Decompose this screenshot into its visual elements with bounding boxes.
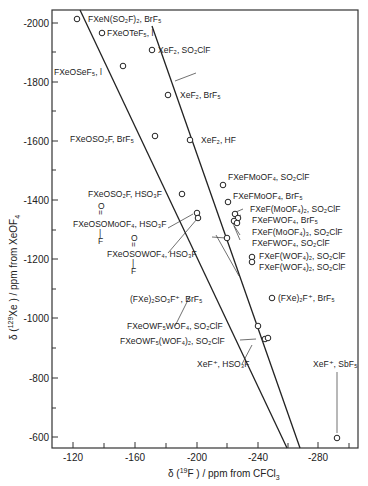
point-label: FXeFWOF₄, BrF₅	[252, 215, 318, 225]
data-point	[74, 16, 80, 22]
y-tick-label: -800	[29, 373, 49, 384]
chart: -2000 -1800 -1600 -1400 -1200 -1000 -800…	[0, 0, 368, 486]
point-label: (FXe)₂F⁺, BrF₅	[278, 293, 335, 303]
point-label: XeF⁺, HSO₃F	[197, 359, 249, 369]
data-point	[195, 215, 201, 221]
point-label: XeF₂, HF	[201, 135, 236, 145]
x-axis	[73, 442, 349, 448]
data-point	[249, 259, 255, 265]
data-point	[225, 199, 231, 205]
point-label: FXeOSOMoOF₄, HSO₃F	[73, 219, 166, 229]
point-label: FXeOTeF₅, l	[107, 28, 154, 38]
point-label: FXeOSO₂F, HSO₃F	[88, 189, 162, 199]
data-point	[165, 92, 171, 98]
data-point	[334, 435, 340, 441]
struct-f: F	[98, 236, 103, 246]
point-label: FXeFMoOF₄, SO₂ClF	[228, 172, 309, 182]
x-tick-label: -120	[63, 452, 83, 463]
point-label: FXeOSO₂F, BrF₅	[70, 134, 134, 144]
y-tick-label: -1200	[23, 254, 49, 265]
y-tick-label: -600	[29, 432, 49, 443]
point-label: XeF⁺, SbF₅	[313, 359, 357, 369]
data-point	[179, 191, 185, 197]
point-label: FXeFWOF₄, SO₂ClF	[252, 238, 330, 248]
point-label: XeF₂, BrF₅	[180, 90, 221, 100]
data-point	[99, 30, 105, 36]
y-tick-label: -1400	[23, 195, 49, 206]
data-point	[255, 323, 261, 329]
point-label: FXeOSeF₅, l	[54, 67, 102, 77]
data-point	[269, 295, 275, 301]
y-tick-label: -2000	[23, 18, 49, 29]
data-point	[149, 47, 155, 53]
data-point	[234, 220, 240, 226]
x-tick-label: -200	[187, 452, 207, 463]
data-point	[224, 235, 230, 241]
struct-f: F	[131, 266, 136, 276]
x-tick-label: -160	[125, 452, 145, 463]
x-tick-label: -240	[248, 452, 268, 463]
point-label: FXeF(MoOF₄)₂, SO₂ClF	[250, 204, 340, 214]
point-label: FXeOSOWOF₄, HSO₃F	[107, 249, 197, 259]
point-label: FXeF(WOF₄)₂, SO₂ClF	[259, 262, 346, 272]
point-label: (FXe)₂SO₃F⁺, BrF₅	[130, 294, 202, 304]
y-axis-title: δ (129Xe ) / ppm from XeOF4	[7, 215, 21, 340]
point-label: FXeFMoOF₄, BrF₅	[233, 191, 303, 201]
x-axis-title: δ (19F ) / ppm from CFCl3	[168, 467, 280, 481]
data-point	[265, 335, 271, 341]
data-point	[220, 182, 226, 188]
data-point	[152, 133, 158, 139]
x-tick-label: -280	[308, 452, 328, 463]
data-point	[120, 63, 126, 69]
point-label: FXeOWF₅WOF₄, SO₂ClF	[127, 321, 223, 331]
point-label: FXeF(MoOF₄)₃, SO₂ClF	[252, 227, 343, 237]
point-label: XeF₂, SO₂ClF	[158, 45, 210, 55]
point-label: FXeOWF₅(WOF₄)₂, SO₂ClF	[120, 336, 225, 346]
y-tick-label: -1600	[23, 136, 49, 147]
y-tick-label: -1000	[23, 313, 49, 324]
y-axis	[52, 23, 58, 437]
y-tick-label: -1800	[23, 77, 49, 88]
point-label: FXeN(SO₂F)₂, BrF₅	[88, 14, 161, 24]
struct-eq: =	[96, 210, 106, 215]
data-point	[187, 137, 193, 143]
struct-eq: =	[129, 242, 139, 247]
point-label: FXeF(WOF₄)₂, SO₂ClF	[259, 251, 346, 261]
